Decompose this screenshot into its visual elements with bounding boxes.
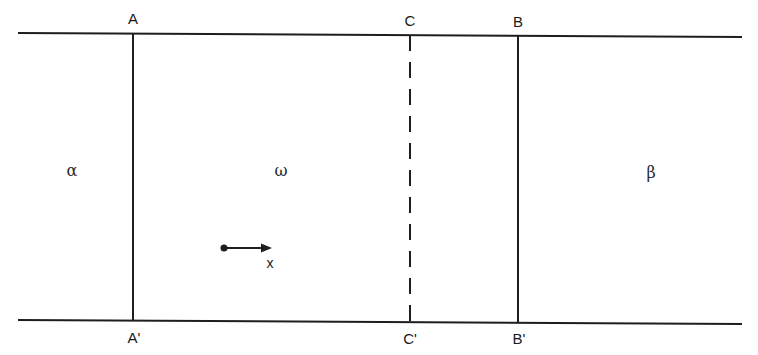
region-alpha-label: α [67, 161, 78, 180]
x-axis-arrow-icon [221, 244, 273, 253]
x-axis-label: x [267, 255, 274, 271]
bottom-boundary-line [18, 320, 742, 324]
label-b-prime: B' [513, 330, 526, 347]
label-c-prime: C' [403, 330, 417, 347]
label-a: A [128, 10, 138, 27]
top-boundary-line [18, 33, 742, 37]
label-c: C [405, 12, 416, 29]
label-b: B [513, 13, 523, 30]
phase-diagram: A C B A' C' B' α ω β x [0, 0, 758, 355]
label-a-prime: A' [128, 329, 141, 346]
region-beta-label: β [646, 163, 655, 182]
region-omega-label: ω [274, 161, 287, 180]
